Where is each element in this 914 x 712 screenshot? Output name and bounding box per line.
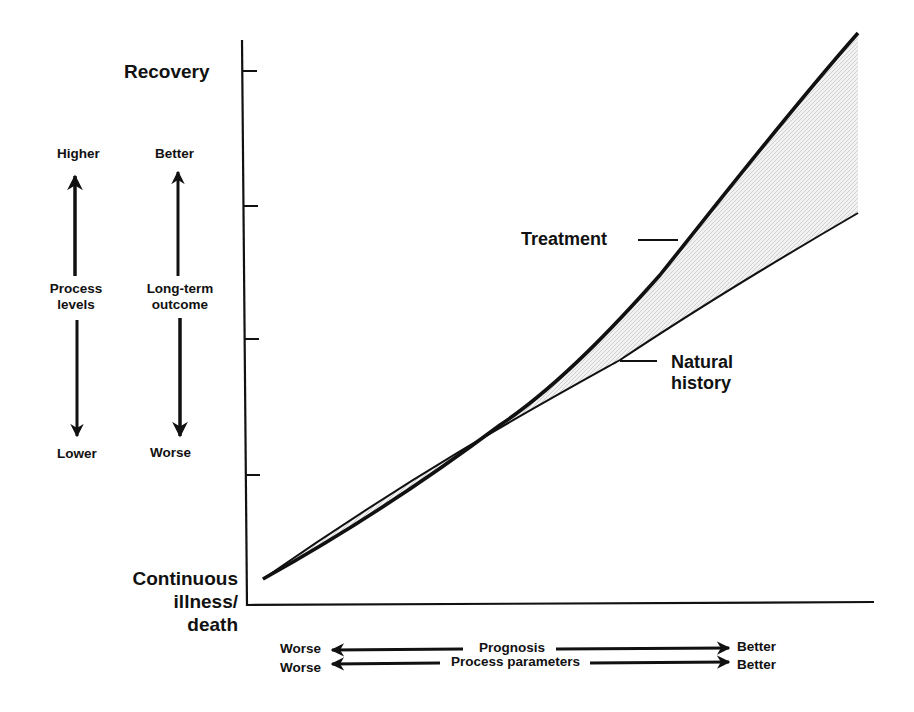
process-levels-line: levels — [40, 297, 112, 313]
process-worse-label: Worse — [280, 660, 321, 675]
benefit-area — [263, 33, 858, 579]
process-levels-label: Process levels — [40, 281, 112, 313]
long-term-outcome-label: Long-term outcome — [138, 281, 222, 313]
natural-history-callout: Natural history — [671, 352, 733, 394]
natural-history-line-text: Natural — [671, 352, 733, 373]
process-levels-line: Process — [40, 281, 112, 297]
process-right-arrow — [590, 662, 729, 663]
prognosis-right-arrow — [556, 648, 729, 649]
natural-history-line-text: history — [671, 373, 733, 394]
treatment-line — [263, 33, 858, 579]
process-left-arrow — [332, 663, 440, 664]
outcome-better-label: Better — [155, 146, 194, 162]
outcome-worse-label: Worse — [150, 445, 191, 461]
long-term-outcome-line: Long-term — [138, 281, 222, 297]
y-axis — [242, 40, 247, 606]
prognosis-better-label: Better — [737, 639, 776, 654]
y-label-line: Continuous — [122, 567, 238, 590]
long-term-outcome-line: outcome — [138, 297, 222, 313]
process-better-label: Better — [737, 657, 776, 672]
prognosis-worse-label: Worse — [280, 641, 321, 656]
treatment-callout: Treatment — [521, 229, 607, 250]
prognosis-left-arrow — [332, 649, 463, 650]
process-higher-label: Higher — [57, 146, 117, 162]
process-parameters-label: Process parameters — [451, 654, 580, 669]
prognosis-label: Prognosis — [479, 640, 545, 655]
process-lower-label: Lower — [57, 446, 97, 462]
y-label-recovery: Recovery — [124, 61, 210, 83]
y-label-line: illness/ — [122, 590, 238, 613]
y-label-line: death — [122, 613, 238, 636]
y-label-continuous-illness-death: Continuous illness/ death — [122, 567, 238, 636]
x-axis — [247, 602, 874, 605]
